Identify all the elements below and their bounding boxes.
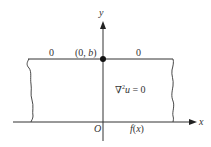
equation-rest: = 0	[130, 84, 146, 95]
nabla-symbol: ∇	[115, 84, 122, 95]
bottom-function-label: f(x)	[130, 123, 144, 135]
y-axis-arrow-icon	[100, 21, 106, 29]
point-0-b-marker	[100, 56, 106, 62]
x-axis-arrow-icon	[189, 119, 197, 125]
function-close-paren: )	[141, 123, 144, 135]
point-label: (0, b)	[75, 47, 97, 59]
point-label-suffix: )	[93, 47, 96, 59]
equation-label: ∇2u = 0	[115, 84, 146, 95]
y-axis-label: y	[98, 7, 104, 18]
laplace-strip-diagram: 0 0 (0, b) ∇2u = 0 y x O f(x)	[0, 0, 211, 147]
point-label-prefix: (0,	[75, 47, 88, 59]
right-wavy-edge	[172, 59, 174, 122]
top-right-boundary-value: 0	[136, 47, 141, 58]
origin-label: O	[94, 123, 101, 134]
x-axis-label: x	[198, 116, 204, 127]
left-wavy-edge	[27, 59, 33, 122]
top-left-boundary-value: 0	[49, 47, 54, 58]
